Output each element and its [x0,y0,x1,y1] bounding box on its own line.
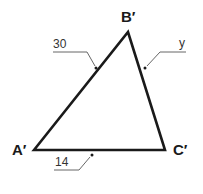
side-ab-length: 30 [53,37,67,51]
side-bc-length: y [179,36,185,50]
vertex-label-a: A′ [12,141,27,158]
side-ac-length: 14 [55,155,69,169]
side-bc-leader [144,52,187,70]
side-ab-leader [53,52,98,70]
triangle-diagram: B′ A′ C′ 30 y 14 [0,0,203,194]
vertex-label-c: C′ [173,141,188,158]
vertex-label-b: B′ [121,8,136,25]
